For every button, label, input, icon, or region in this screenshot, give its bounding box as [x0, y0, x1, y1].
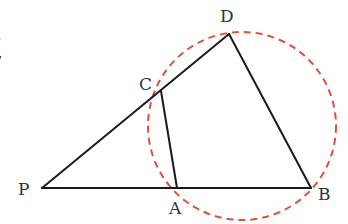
segments-group	[42, 34, 311, 188]
geometry-diagram: · , P A B C D	[0, 0, 348, 224]
segment-pd	[42, 34, 229, 188]
point-label-p: P	[18, 179, 29, 199]
edge-text-fragment-2: ,	[0, 45, 2, 61]
segment-ca	[161, 91, 177, 188]
segment-db	[229, 34, 311, 188]
point-label-b: B	[318, 184, 331, 204]
point-label-a: A	[168, 198, 182, 218]
point-label-c: C	[139, 74, 152, 94]
point-label-d: D	[220, 6, 234, 26]
